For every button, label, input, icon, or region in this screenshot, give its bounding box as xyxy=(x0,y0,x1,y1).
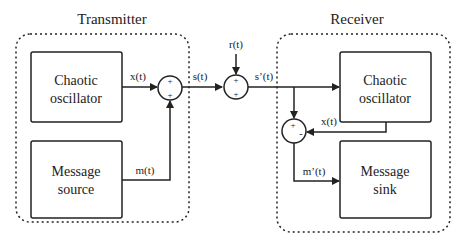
message-source-label-2: source xyxy=(58,182,95,197)
message-sink-label-1: Message xyxy=(361,164,410,179)
rx-chaotic-oscillator-label-1: Chaotic xyxy=(363,73,407,88)
s-prime-signal-label: s’(t) xyxy=(255,70,274,83)
rx-subtractor-top-sign: + xyxy=(290,120,295,130)
rx-x-signal-arrow xyxy=(307,122,386,132)
transmitter-title: Transmitter xyxy=(77,11,146,27)
channel-adder-top-sign: + xyxy=(233,75,238,85)
message-sink-label-2: sink xyxy=(373,182,396,197)
s-signal-label: s(t) xyxy=(193,70,208,83)
message-source-block xyxy=(31,141,122,218)
channel-adder-bottom-sign: + xyxy=(233,89,238,99)
receiver-group: Receiver Chaotic oscillator + - x(t) Mes… xyxy=(248,11,450,232)
rx-chaotic-oscillator-label-2: oscillator xyxy=(359,91,411,106)
tx-chaotic-oscillator-label-1: Chaotic xyxy=(54,73,98,88)
tx-x-signal-label: x(t) xyxy=(130,70,146,83)
transmitter-boundary xyxy=(16,34,189,222)
tx-chaotic-oscillator-label-2: oscillator xyxy=(50,91,102,106)
tx-adder-bottom-sign: + xyxy=(167,90,172,100)
rx-subtractor-right-sign: - xyxy=(299,128,302,139)
r-signal-label: r(t) xyxy=(229,38,243,51)
message-sink-block xyxy=(340,141,431,218)
chaotic-communication-diagram: Transmitter Chaotic oscillator Message s… xyxy=(0,0,463,249)
tx-m-signal-label: m(t) xyxy=(136,164,155,177)
receiver-title: Receiver xyxy=(330,11,383,27)
rx-x-signal-label: x(t) xyxy=(321,115,337,128)
tx-adder-top-sign: + xyxy=(167,76,172,86)
channel-group: s(t) r(t) + + s’(t) xyxy=(182,38,273,99)
rx-m-prime-signal-label: m’(t) xyxy=(303,165,326,178)
transmitter-group: Transmitter Chaotic oscillator Message s… xyxy=(16,11,189,222)
message-source-label-1: Message xyxy=(52,164,101,179)
